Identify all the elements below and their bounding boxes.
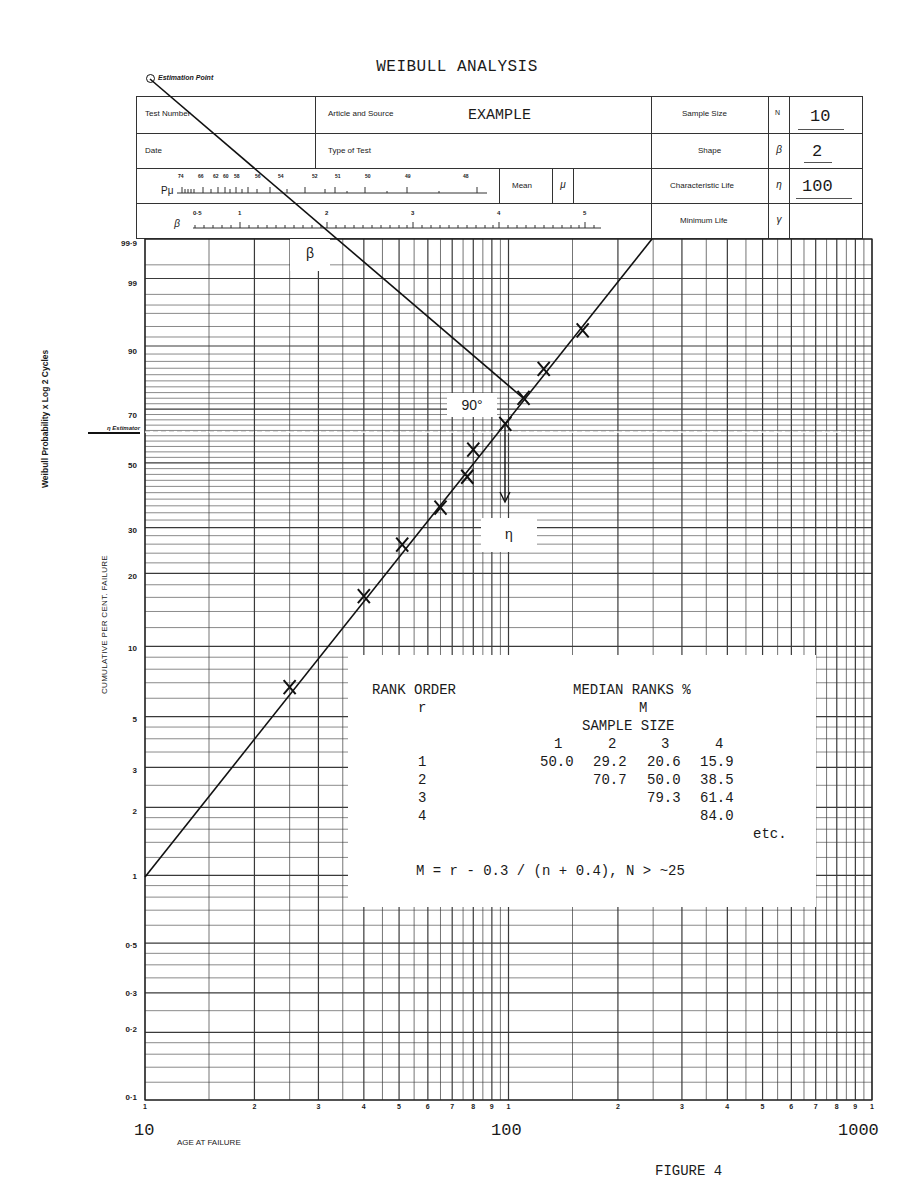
x-minor-tick-label: 4 <box>725 1103 729 1110</box>
side-title: Weibull Probability x Log 2 Cycles <box>40 350 50 488</box>
median-ranks-heading: MEDIAN RANKS % <box>573 682 691 698</box>
x-minor-tick-label: 8 <box>835 1103 839 1110</box>
x-minor-tick-label: 2 <box>252 1103 256 1110</box>
x-minor-tick-label: 4 <box>362 1103 366 1110</box>
x-minor-tick-label: 3 <box>316 1103 320 1110</box>
x-minor-tick-label: 1 <box>143 1103 147 1110</box>
x-tick-100: 100 <box>491 1121 522 1140</box>
weibull-plot <box>0 0 918 1199</box>
x-minor-tick-label: 1 <box>870 1103 874 1110</box>
etc-label: etc. <box>753 826 787 842</box>
sample-size-heading: SAMPLE SIZE <box>582 718 674 734</box>
rank-order-sub: r <box>418 700 426 716</box>
x-minor-tick-label: 7 <box>814 1103 818 1110</box>
beta-marker: β <box>290 239 330 271</box>
median-rank-table: RANK ORDER r MEDIAN RANKS % M SAMPLE SIZ… <box>348 655 816 907</box>
x-minor-tick-label: 9 <box>490 1103 494 1110</box>
x-minor-tick-label: 9 <box>853 1103 857 1110</box>
rank-order-heading: RANK ORDER <box>372 682 456 698</box>
eta-estimator-label: η Estimator <box>88 425 140 434</box>
figure-label: FIGURE 4 <box>655 1163 722 1179</box>
eta-marker: η <box>481 518 537 552</box>
x-minor-tick-label: 7 <box>450 1103 454 1110</box>
y-axis-title: CUMULATIVE PER CENT. FAILURE <box>100 555 109 694</box>
angle-marker: 90° <box>447 393 497 417</box>
median-rank-formula: M = r - 0.3 / (n + 0.4), N > ~25 <box>416 863 685 879</box>
x-minor-tick-label: 3 <box>680 1103 684 1110</box>
x-tick-10: 10 <box>134 1121 154 1140</box>
x-minor-tick-label: 6 <box>789 1103 793 1110</box>
x-minor-tick-label: 6 <box>426 1103 430 1110</box>
x-axis-title: AGE AT FAILURE <box>177 1138 241 1147</box>
x-minor-tick-label: 5 <box>761 1103 765 1110</box>
x-minor-tick-label: 1 <box>507 1103 511 1110</box>
x-tick-1000: 1000 <box>838 1121 879 1140</box>
x-minor-tick-label: 2 <box>616 1103 620 1110</box>
x-minor-tick-label: 5 <box>397 1103 401 1110</box>
median-ranks-sub: M <box>639 700 647 716</box>
x-minor-tick-label: 8 <box>471 1103 475 1110</box>
